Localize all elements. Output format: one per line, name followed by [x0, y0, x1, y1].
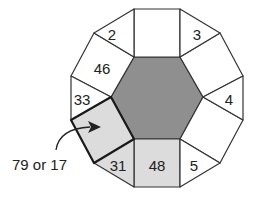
dodecagon-diagram: 2 3 46 33 4 31 48 5 79 or 17	[0, 0, 257, 203]
label-bottom-square: 48	[149, 157, 166, 174]
label-top-left-triangle: 2	[108, 26, 116, 43]
label-top-right-triangle: 3	[193, 26, 201, 43]
callout-label: 79 or 17	[12, 156, 67, 173]
label-left-triangle: 33	[74, 91, 91, 108]
label-upper-left-square: 46	[94, 60, 111, 77]
label-bottom-right-triangle: 5	[190, 157, 198, 174]
label-bottom-left-triangle: 31	[110, 157, 127, 174]
top-square	[134, 9, 180, 57]
label-right-triangle: 4	[225, 91, 233, 108]
